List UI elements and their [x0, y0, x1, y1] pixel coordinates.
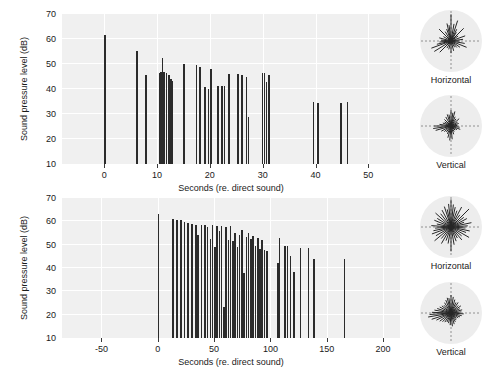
x-axis-tick-mark	[158, 338, 159, 342]
data-bar	[201, 225, 203, 338]
gridline-vertical	[101, 198, 102, 338]
gridline-horizontal	[62, 220, 400, 221]
data-bar	[290, 256, 292, 338]
data-bar	[172, 219, 174, 338]
data-bar	[344, 259, 346, 338]
x-axis-tick-mark	[101, 338, 102, 342]
x-axis-title: Seconds (re. direct sound)	[62, 357, 400, 367]
data-bar	[204, 225, 206, 338]
polar-plot-bottom-horizontal: Horizontal	[420, 196, 482, 274]
polar-caption: Horizontal	[420, 75, 482, 85]
data-bar	[287, 246, 289, 338]
x-axis-tick-label: 0	[138, 345, 178, 354]
gridline-vertical	[327, 198, 328, 338]
y-axis-tick-label: 30	[28, 287, 56, 296]
data-bar	[184, 222, 186, 338]
gridline-vertical	[270, 198, 271, 338]
y-axis-title: Sound pressure level (dB)	[19, 198, 29, 338]
data-bar	[284, 246, 286, 338]
x-axis-tick-label: -50	[81, 345, 121, 354]
plot-area-bottom-panel	[62, 198, 400, 338]
x-axis-tick-mark	[327, 338, 328, 342]
data-bar	[207, 227, 209, 338]
x-axis-tick-mark	[383, 338, 384, 342]
x-axis-tick-mark	[214, 338, 215, 342]
polar-rays	[420, 282, 482, 344]
y-axis-tick-label: 50	[28, 241, 56, 250]
data-bar	[197, 235, 199, 338]
polar-caption: Vertical	[420, 347, 482, 357]
polar-rays	[420, 10, 482, 72]
polar-caption: Vertical	[420, 160, 482, 170]
data-bar	[279, 238, 281, 338]
y-axis-tick-label: 70	[28, 194, 56, 203]
data-bar	[176, 220, 178, 338]
x-axis-tick-label: 150	[307, 345, 347, 354]
polar-caption: Horizontal	[420, 261, 482, 271]
data-bar	[300, 248, 302, 338]
gridline-vertical	[383, 198, 384, 338]
data-bar	[313, 259, 315, 338]
x-axis-tick-label: 100	[250, 345, 290, 354]
polar-plot-bottom-vertical: Vertical	[420, 282, 482, 360]
polar-plot-top-horizontal: Horizontal	[420, 10, 482, 88]
y-axis-tick-label: 10	[28, 334, 56, 343]
polar-plot-top-vertical: Vertical	[420, 95, 482, 173]
data-bar	[308, 248, 310, 338]
data-bar	[191, 224, 193, 338]
polar-rays	[420, 95, 482, 157]
y-axis-tick-label: 60	[28, 217, 56, 226]
data-bar	[187, 223, 189, 338]
data-bar	[293, 272, 295, 339]
data-bar	[180, 220, 182, 338]
x-axis-tick-label: 50	[194, 345, 234, 354]
x-axis-tick-mark	[270, 338, 271, 342]
data-bar	[266, 251, 268, 338]
data-bar	[158, 214, 160, 338]
figure-root: 1020304050607001020304050Seconds (re. di…	[0, 0, 501, 371]
y-axis-tick-label: 40	[28, 264, 56, 273]
x-axis-tick-label: 200	[363, 345, 403, 354]
polar-rays	[420, 196, 482, 258]
y-axis-tick-label: 20	[28, 311, 56, 320]
